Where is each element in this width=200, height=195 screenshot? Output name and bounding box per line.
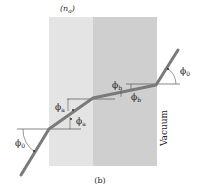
- arc-marker: [70, 118, 72, 120]
- arc-marker: [167, 68, 169, 70]
- substance-a-slab: [49, 17, 93, 166]
- index-label-na: (na): [60, 4, 75, 14]
- refraction-diagram: Substance a Substance b (na) ϕ0 ϕa ϕa ϕb…: [0, 0, 200, 195]
- arc-phi0-right: [167, 68, 176, 84]
- figure-caption: (b): [94, 176, 105, 185]
- label-phi0-left: ϕ0: [15, 138, 25, 149]
- arc-marker: [72, 109, 74, 111]
- label-phi0-right: ϕ0: [180, 66, 190, 77]
- vacuum-label: Vacuum: [159, 109, 169, 147]
- arc-marker: [33, 150, 35, 152]
